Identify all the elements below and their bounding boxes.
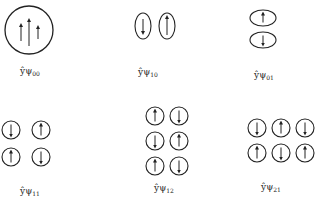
mode-label-symbol: ŷψ <box>254 70 266 80</box>
mode-psi12 <box>146 107 188 175</box>
mode-label-psi12: ŷψ12 <box>154 183 174 194</box>
mode-label-psi21: ŷψ21 <box>261 182 281 193</box>
mode-label-psi11: ŷψ11 <box>20 186 40 197</box>
mode-label-subscript: 00 <box>32 70 40 77</box>
mode-diagram-canvas <box>0 0 323 204</box>
mode-psi11 <box>2 121 50 166</box>
mode-psi00 <box>5 6 53 54</box>
mode-label-subscript: 21 <box>273 186 281 193</box>
mode-label-subscript: 12 <box>166 187 174 194</box>
mode-label-subscript: 01 <box>266 74 274 81</box>
mode-label-symbol: ŷψ <box>261 182 273 192</box>
mode-label-psi01: ŷψ01 <box>254 70 274 81</box>
mode-label-symbol: ŷψ <box>20 186 32 196</box>
mode-label-psi00: ŷψ00 <box>20 66 40 77</box>
mode-psi21 <box>248 119 314 162</box>
mode-psi01 <box>250 10 276 48</box>
mode-label-psi10: ŷψ10 <box>138 67 158 78</box>
mode-label-symbol: ŷψ <box>138 67 150 77</box>
mode-label-subscript: 10 <box>150 71 158 78</box>
mode-label-symbol: ŷψ <box>154 183 166 193</box>
mode-label-subscript: 11 <box>32 190 40 197</box>
mode-label-symbol: ŷψ <box>20 66 32 76</box>
mode-psi10 <box>135 13 175 39</box>
